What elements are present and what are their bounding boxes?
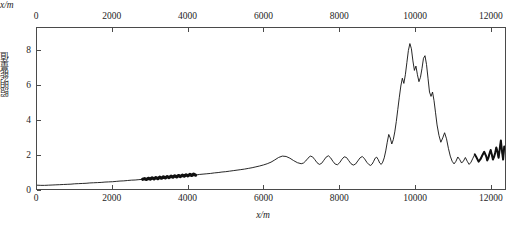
y-tick-label: 2 xyxy=(17,150,31,160)
top-tick-label: 12000 xyxy=(461,11,521,21)
bottom-tick-mark xyxy=(415,185,416,189)
top-tick-mark xyxy=(415,28,416,32)
data-curve xyxy=(37,28,505,189)
bottom-axis-title: x/m xyxy=(0,210,526,220)
bottom-tick-label: 8000 xyxy=(309,193,369,203)
bottom-tick-mark xyxy=(263,185,264,189)
plot-area xyxy=(36,27,506,190)
y-tick-mark xyxy=(37,190,41,191)
y-tick-label: 4 xyxy=(17,115,31,125)
bottom-tick-mark xyxy=(188,185,189,189)
top-tick-label: 8000 xyxy=(309,11,369,21)
bottom-tick-label: 6000 xyxy=(233,193,293,203)
y-tick-label: 8 xyxy=(17,45,31,55)
bottom-tick-mark xyxy=(112,185,113,189)
top-tick-label: 6000 xyxy=(233,11,293,21)
top-tick-mark xyxy=(339,28,340,32)
top-tick-mark xyxy=(188,28,189,32)
bottom-tick-label: 0 xyxy=(6,193,66,203)
bottom-tick-label: 4000 xyxy=(158,193,218,203)
y-tick-mark xyxy=(37,120,41,121)
bottom-tick-label: 12000 xyxy=(461,193,521,203)
figure-caption xyxy=(0,224,526,233)
y-tick-mark xyxy=(37,85,41,86)
top-tick-mark xyxy=(36,28,37,32)
y-tick-label: 6 xyxy=(17,80,31,90)
top-tick-label: 4000 xyxy=(158,11,218,21)
top-tick-mark xyxy=(263,28,264,32)
bottom-tick-label: 10000 xyxy=(385,193,445,203)
figure-container: x/m 0 2000 4000 6000 8000 10000 12000 照明… xyxy=(0,0,526,234)
bottom-tick-mark xyxy=(339,185,340,189)
bottom-tick-mark xyxy=(36,185,37,189)
top-tick-label: 2000 xyxy=(82,11,142,21)
top-tick-mark xyxy=(112,28,113,32)
y-axis-title: 照明能量值 xyxy=(0,52,13,97)
y-tick-mark xyxy=(37,155,41,156)
top-tick-mark xyxy=(491,28,492,32)
bottom-tick-mark xyxy=(491,185,492,189)
top-tick-label: 10000 xyxy=(385,11,445,21)
top-axis-title: x/m xyxy=(0,0,14,10)
top-tick-label: 0 xyxy=(6,11,66,21)
y-tick-mark xyxy=(37,50,41,51)
bottom-tick-label: 2000 xyxy=(82,193,142,203)
